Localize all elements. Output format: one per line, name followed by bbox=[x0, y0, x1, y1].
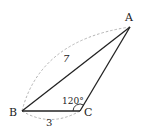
vertex-label-b: B bbox=[9, 106, 17, 119]
length-label-bc: 3 bbox=[46, 117, 52, 128]
length-label-ab: 7 bbox=[63, 53, 70, 64]
angle-label-c: 120° bbox=[62, 96, 84, 106]
edge-ca bbox=[80, 27, 130, 111]
triangle-diagram: A B C 7 3 120° bbox=[0, 0, 146, 130]
vertex-label-c: C bbox=[84, 106, 92, 119]
vertex-label-a: A bbox=[124, 11, 134, 24]
